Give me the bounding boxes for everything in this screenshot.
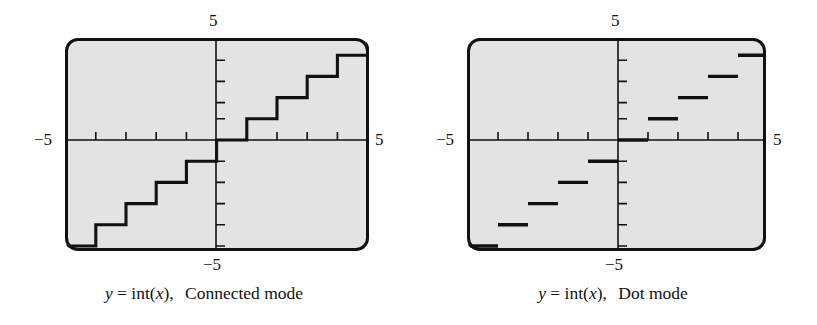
caption-var-y-dot: y xyxy=(538,283,546,303)
axis-label-top-left-panel: 5 xyxy=(209,12,218,29)
figure-two-calculator-screens: 5 −5 5 −5 y = int(x), Connected mode xyxy=(0,0,817,325)
caption-close-paren-connected: ), xyxy=(163,283,173,303)
caption-close-paren-dot: ), xyxy=(597,283,607,303)
plot-connected-mode xyxy=(65,38,369,251)
caption-dot-mode: y = int(x), Dot mode xyxy=(409,283,817,304)
calculator-screen-connected: 5 −5 5 −5 xyxy=(0,0,408,290)
panel-connected-mode: 5 −5 5 −5 y = int(x), Connected mode xyxy=(0,0,408,325)
caption-func-connected: int( xyxy=(131,283,155,303)
axis-label-bottom-left-panel: −5 xyxy=(203,256,221,273)
axis-label-right-left-panel: 5 xyxy=(375,131,384,148)
axis-label-left-left-panel: −5 xyxy=(34,131,52,148)
axis-label-top-right-panel: 5 xyxy=(611,12,620,29)
caption-mode-connected: Connected mode xyxy=(185,283,303,303)
caption-var-y-connected: y xyxy=(105,283,113,303)
caption-connected-mode: y = int(x), Connected mode xyxy=(0,283,408,304)
axis-label-right-right-panel: 5 xyxy=(773,131,782,148)
plot-dot-mode xyxy=(467,38,766,251)
axis-label-left-right-panel: −5 xyxy=(436,131,454,148)
caption-equals-connected: = xyxy=(117,283,127,303)
step-segments-dot xyxy=(468,55,765,246)
panel-dot-mode: 5 −5 5 −5 y = int(x), Dot mode xyxy=(409,0,817,325)
calculator-screen-dot: 5 −5 5 −5 xyxy=(409,0,817,290)
caption-mode-dot: Dot mode xyxy=(618,283,688,303)
caption-var-x-dot: x xyxy=(589,283,597,303)
axis-label-bottom-right-panel: −5 xyxy=(605,256,623,273)
caption-func-dot: int( xyxy=(565,283,589,303)
caption-equals-dot: = xyxy=(550,283,560,303)
